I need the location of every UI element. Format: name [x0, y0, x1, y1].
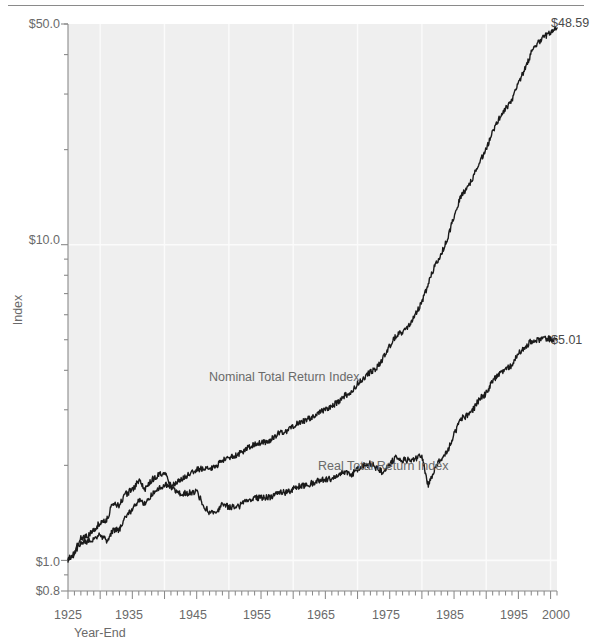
- x-tick-label-1985: 1985: [436, 608, 464, 622]
- y-axis-title: Index: [11, 294, 25, 325]
- x-axis-title: Year-End: [74, 626, 126, 640]
- chart-figure: $50.0 $10.0 $1.0 $0.8 1925 1935 1945 195…: [0, 0, 592, 644]
- x-tick-label-1945: 1945: [179, 608, 207, 622]
- end-label-real: $5.01: [551, 333, 582, 347]
- x-tick-label-1965: 1965: [307, 608, 335, 622]
- x-tick-label-1955: 1955: [243, 608, 271, 622]
- y-tick-label-10: $10.0: [29, 233, 60, 247]
- x-tick-label-1935: 1935: [115, 608, 143, 622]
- x-tick-label-1925: 1925: [54, 608, 82, 622]
- y-tick-label-08: $0.8: [36, 584, 60, 598]
- y-tick-label-1: $1.0: [36, 555, 60, 569]
- end-label-nominal: $48.59: [551, 16, 589, 30]
- x-tick-label-1975: 1975: [372, 608, 400, 622]
- x-axis-ticks: [68, 591, 557, 599]
- y-axis-ticks: [61, 24, 68, 591]
- x-tick-label-1995: 1995: [500, 608, 528, 622]
- plot-background: [68, 24, 557, 591]
- x-tick-label-2000: 2000: [542, 608, 570, 622]
- series-annotation-nominal: Nominal Total Return Index: [209, 370, 360, 384]
- index-growth-line-chart: $50.0 $10.0 $1.0 $0.8 1925 1935 1945 195…: [0, 0, 592, 644]
- y-tick-label-50: $50.0: [29, 17, 60, 31]
- series-annotation-real: Real Total Return Index: [318, 459, 449, 473]
